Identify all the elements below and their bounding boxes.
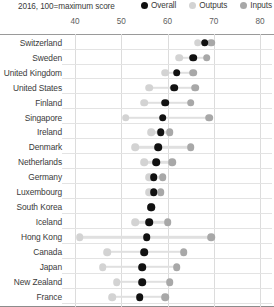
range-connector xyxy=(126,116,209,118)
innovation-index-chart: 2016, 100=maximum score OverallOutputsIn… xyxy=(0,0,274,307)
country-label: Iceland xyxy=(36,217,62,227)
data-point-overall[interactable] xyxy=(173,69,181,77)
data-point-overall[interactable] xyxy=(152,159,160,167)
data-point-overall[interactable] xyxy=(145,218,153,226)
data-point-outputs[interactable] xyxy=(161,69,169,77)
data-point-overall[interactable] xyxy=(150,174,158,182)
data-point-overall[interactable] xyxy=(143,233,151,241)
data-point-inputs[interactable] xyxy=(157,189,165,197)
country-label: Ireland xyxy=(37,127,62,137)
legend-item-overall[interactable]: Overall xyxy=(141,1,176,10)
chart-row: Singapore xyxy=(0,111,274,125)
data-point-outputs[interactable] xyxy=(104,248,112,256)
chart-row: Hong Kong xyxy=(0,230,274,244)
data-point-outputs[interactable] xyxy=(108,293,116,301)
row-separator xyxy=(62,108,272,109)
country-label: Sweden xyxy=(32,53,62,63)
data-point-inputs[interactable] xyxy=(208,39,216,47)
data-point-inputs[interactable] xyxy=(205,114,213,122)
country-label: United States xyxy=(13,83,62,93)
data-point-inputs[interactable] xyxy=(159,174,167,182)
legend-item-outputs[interactable]: Outputs xyxy=(189,1,227,10)
data-point-overall[interactable] xyxy=(154,144,162,152)
row-separator xyxy=(62,243,272,244)
data-point-overall[interactable] xyxy=(157,129,165,137)
country-label: Denmark xyxy=(29,142,62,152)
country-label: Germany xyxy=(28,172,62,182)
chart-row: Switzerland xyxy=(0,36,274,50)
chart-row: Japan xyxy=(0,260,274,274)
data-point-outputs[interactable] xyxy=(131,218,139,226)
country-label: Singapore xyxy=(25,113,62,123)
data-point-inputs[interactable] xyxy=(161,293,169,301)
data-point-inputs[interactable] xyxy=(187,144,195,152)
data-point-inputs[interactable] xyxy=(173,263,181,271)
data-point-inputs[interactable] xyxy=(164,218,172,226)
data-point-outputs[interactable] xyxy=(76,233,84,241)
country-label: South Korea xyxy=(17,202,62,212)
data-point-inputs[interactable] xyxy=(189,69,197,77)
data-point-inputs[interactable] xyxy=(191,84,199,92)
data-point-overall[interactable] xyxy=(138,278,146,286)
data-point-outputs[interactable] xyxy=(141,99,149,107)
row-separator xyxy=(62,213,272,214)
chart-row: France xyxy=(0,290,274,304)
data-point-outputs[interactable] xyxy=(122,114,130,122)
x-axis-tick-label: 70 xyxy=(209,17,218,26)
row-separator xyxy=(62,138,272,139)
chart-row: United Kingdom xyxy=(0,66,274,80)
row-separator xyxy=(62,258,272,259)
country-label: Canada xyxy=(33,247,62,257)
legend-label: Inputs xyxy=(250,1,272,10)
row-separator xyxy=(62,64,272,65)
country-label: France xyxy=(37,292,62,302)
data-point-overall[interactable] xyxy=(150,189,158,197)
data-point-inputs[interactable] xyxy=(166,278,174,286)
x-axis-tick-label: 40 xyxy=(70,17,79,26)
chart-legend: OverallOutputsInputs xyxy=(141,1,272,10)
data-point-outputs[interactable] xyxy=(99,263,107,271)
x-axis-tick-label: 50 xyxy=(117,17,126,26)
data-point-outputs[interactable] xyxy=(131,144,139,152)
data-point-overall[interactable] xyxy=(136,293,144,301)
legend-label: Overall xyxy=(151,1,176,10)
data-point-outputs[interactable] xyxy=(145,84,153,92)
chart-row: Finland xyxy=(0,96,274,110)
chart-row: Netherlands xyxy=(0,156,274,170)
data-point-overall[interactable] xyxy=(201,39,209,47)
chart-row: Ireland xyxy=(0,126,274,140)
country-label: Netherlands xyxy=(18,157,62,167)
chart-header: 2016, 100=maximum score OverallOutputsIn… xyxy=(0,0,274,16)
row-separator xyxy=(62,198,272,199)
chart-row: Iceland xyxy=(0,215,274,229)
row-separator xyxy=(62,273,272,274)
row-separator xyxy=(62,153,272,154)
country-label: Finland xyxy=(35,98,62,108)
data-point-outputs[interactable] xyxy=(141,159,149,167)
data-point-overall[interactable] xyxy=(159,114,167,122)
data-point-inputs[interactable] xyxy=(168,159,176,167)
data-point-outputs[interactable] xyxy=(113,278,121,286)
data-point-overall[interactable] xyxy=(148,203,156,211)
legend-item-inputs[interactable]: Inputs xyxy=(240,1,272,10)
chart-row: Denmark xyxy=(0,141,274,155)
data-point-inputs[interactable] xyxy=(203,54,211,62)
data-point-inputs[interactable] xyxy=(166,129,174,137)
range-connector xyxy=(135,146,191,148)
data-point-overall[interactable] xyxy=(161,99,169,107)
data-point-inputs[interactable] xyxy=(208,233,216,241)
data-point-outputs[interactable] xyxy=(148,129,156,137)
country-label: Japan xyxy=(40,262,62,272)
data-point-inputs[interactable] xyxy=(180,248,188,256)
plot-top-rule xyxy=(0,34,274,35)
data-point-outputs[interactable] xyxy=(175,54,183,62)
chart-row: South Korea xyxy=(0,200,274,214)
data-point-overall[interactable] xyxy=(138,263,146,271)
row-separator xyxy=(62,123,272,124)
data-point-inputs[interactable] xyxy=(187,99,195,107)
legend-label: Outputs xyxy=(199,1,227,10)
row-separator xyxy=(62,183,272,184)
data-point-overall[interactable] xyxy=(171,84,179,92)
data-point-overall[interactable] xyxy=(141,248,149,256)
data-point-overall[interactable] xyxy=(189,54,197,62)
